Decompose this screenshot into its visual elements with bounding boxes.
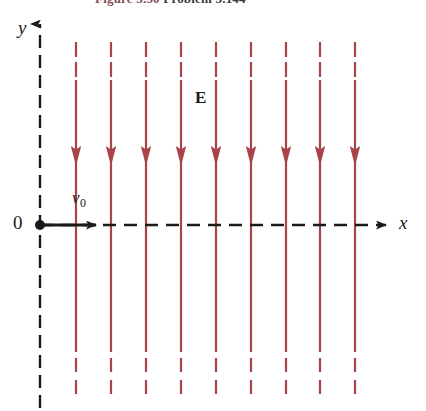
physics-figure: Figure 5.50 Problem 5.144 <box>0 0 426 411</box>
field-line <box>350 42 360 402</box>
electric-field-label: E <box>195 88 206 108</box>
origin-dot <box>35 220 45 230</box>
velocity-label: v0 <box>72 188 86 211</box>
field-lines-group <box>71 42 360 402</box>
field-line <box>246 42 256 402</box>
field-line <box>281 42 291 402</box>
velocity-subscript: 0 <box>80 196 86 210</box>
field-line <box>141 42 151 402</box>
x-axis-label: x <box>399 212 407 234</box>
figure-canvas <box>0 0 426 411</box>
field-line <box>106 42 116 402</box>
field-line <box>211 42 221 402</box>
origin-label: 0 <box>13 212 23 234</box>
y-axis-label: y <box>18 17 26 39</box>
field-line <box>176 42 186 402</box>
field-line <box>71 42 81 402</box>
field-line <box>315 42 325 402</box>
velocity-symbol: v <box>72 188 80 207</box>
